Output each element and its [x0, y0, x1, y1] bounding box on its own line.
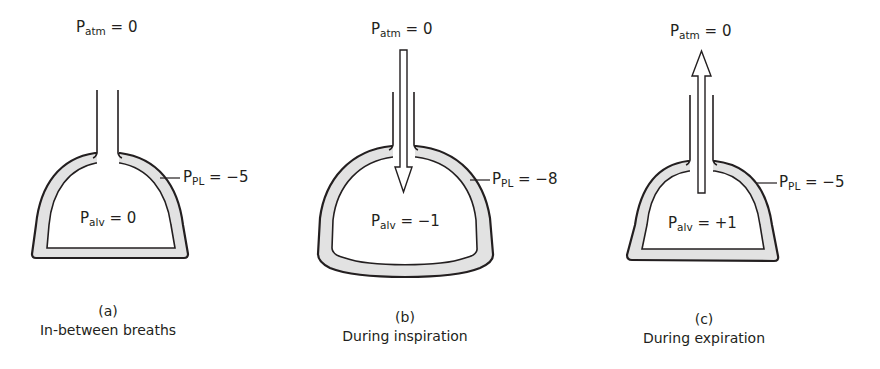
panel-a-caption: (a) In-between breaths [28, 302, 188, 340]
panel-a-p-alv-label: Palv = 0 [80, 211, 136, 226]
panel-c-p-pl-label: PPL = −5 [779, 175, 844, 190]
panel-a-trachea-lumen [97, 90, 119, 165]
panel-c-description: During expiration [624, 329, 784, 348]
panel-c-caption: (c) During expiration [624, 310, 784, 348]
panel-a-p-atm-label: Patm = 0 [76, 20, 138, 35]
panel-b-p-atm-label: Patm = 0 [371, 22, 433, 37]
panel-b-letter: (b) [325, 308, 485, 327]
panel-b-p-pl-label: PPL = −8 [492, 172, 557, 187]
panel-a-description: In-between breaths [28, 321, 188, 340]
panel-b-lung [318, 50, 493, 277]
panel-a-p-pl-label: PPL = −5 [183, 170, 248, 185]
panel-a-lung [32, 90, 188, 258]
panel-b-p-alv-label: Palv = −1 [371, 214, 440, 229]
panel-a-letter: (a) [28, 302, 188, 321]
panel-c-letter: (c) [624, 310, 784, 329]
panel-c-p-atm-label: Patm = 0 [670, 24, 732, 39]
panel-b-description: During inspiration [325, 327, 485, 346]
panel-b-caption: (b) During inspiration [325, 308, 485, 346]
panel-c-p-alv-label: Palv = +1 [668, 216, 737, 231]
